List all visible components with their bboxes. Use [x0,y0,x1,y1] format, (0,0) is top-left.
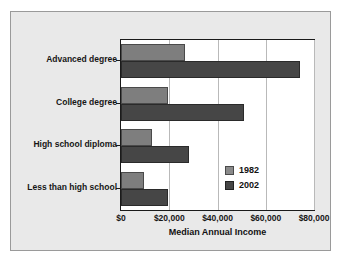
chart-figure: Advanced degreeCollege degreeHigh school… [0,0,342,263]
bar-1982-college-degree [121,87,168,104]
bar-1982-high-school-diploma [121,129,152,146]
legend-item-2002: 2002 [225,179,273,192]
plot-inner [121,40,314,210]
legend-swatch-2002 [225,181,234,190]
y-axis-label-high-school-diploma: High school diploma [33,140,117,149]
legend-swatch-1982 [225,166,234,175]
x-axis-tick-0: $0 [116,214,125,223]
chart-legend: 1982 2002 [225,164,273,194]
plot-area [120,39,315,211]
y-axis-tick [116,60,120,61]
x-axis-tick-1: $20,000 [154,214,185,223]
legend-item-1982: 1982 [225,164,273,177]
bar-2002-less-than-high-school [121,189,168,206]
bar-1982-advanced-degree [121,44,185,61]
legend-label-1982: 1982 [239,166,259,175]
gridline [314,40,315,210]
y-axis-label-advanced-degree: Advanced degree [46,55,117,64]
bar-2002-advanced-degree [121,61,300,78]
chart-panel: Advanced degreeCollege degreeHigh school… [10,11,331,251]
y-axis-label-college-degree: College degree [56,98,117,107]
y-axis-tick [116,145,120,146]
bar-2002-college-degree [121,104,244,121]
y-axis-category-labels: Advanced degreeCollege degreeHigh school… [11,39,117,211]
bar-1982-less-than-high-school [121,172,144,189]
x-axis-tick-4: $80,000 [299,214,330,223]
y-axis-tick [116,103,120,104]
legend-label-2002: 2002 [239,181,259,190]
x-axis-tick-labels: $0$20,000$40,000$60,000$80,000 [120,214,315,226]
x-axis-tick-3: $60,000 [250,214,281,223]
y-axis-label-less-than-high-school: Less than high school [27,183,117,192]
x-axis-tick-2: $40,000 [202,214,233,223]
bar-2002-high-school-diploma [121,146,189,163]
x-axis-title: Median Annual Income [120,228,315,237]
y-axis-tick [116,188,120,189]
